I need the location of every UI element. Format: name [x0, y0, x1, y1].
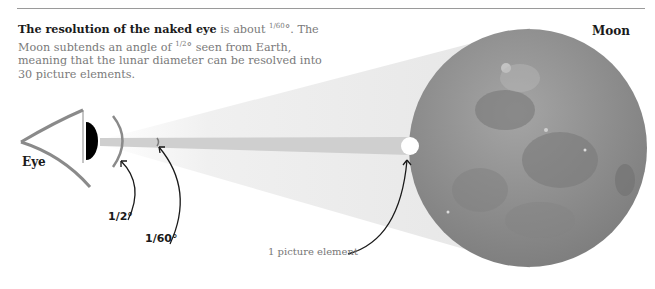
half-degree-label: 1/2°	[108, 210, 133, 223]
moon-label: Moon	[592, 24, 630, 38]
eye-label: Eye	[22, 155, 46, 169]
picture-element-label: 1 picture element	[268, 246, 358, 257]
eye-icon	[21, 110, 98, 187]
sixtieth-degree-label: 1/60°	[145, 232, 177, 245]
